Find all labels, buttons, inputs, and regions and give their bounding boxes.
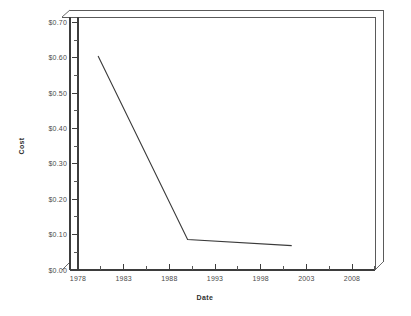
- y-tick-label: $0.00: [48, 267, 67, 274]
- x-tick-label: 2003: [298, 275, 314, 282]
- x-tick-label: 1998: [252, 275, 268, 282]
- line-chart: $0.00$0.10$0.20$0.30$0.40$0.50$0.60$0.70…: [0, 0, 411, 316]
- y-axis-title: Cost: [18, 137, 25, 154]
- x-tick-label: 1993: [207, 275, 223, 282]
- x-tick-label: 2008: [344, 275, 360, 282]
- y-tick-label: $0.50: [48, 90, 67, 97]
- x-tick-label: 1978: [70, 275, 86, 282]
- y-tick-label: $0.20: [48, 196, 67, 203]
- chart-container: $0.00$0.10$0.20$0.30$0.40$0.50$0.60$0.70…: [0, 0, 411, 316]
- x-axis-title: Date: [197, 294, 214, 301]
- y-tick-label: $0.10: [48, 231, 67, 238]
- y-tick-label: $0.40: [48, 125, 67, 132]
- x-tick-label: 1983: [115, 275, 131, 282]
- x-tick-label: 1988: [161, 275, 177, 282]
- y-tick-label: $0.60: [48, 54, 67, 61]
- y-tick-label: $0.30: [48, 160, 67, 167]
- y-tick-label: $0.70: [48, 19, 67, 26]
